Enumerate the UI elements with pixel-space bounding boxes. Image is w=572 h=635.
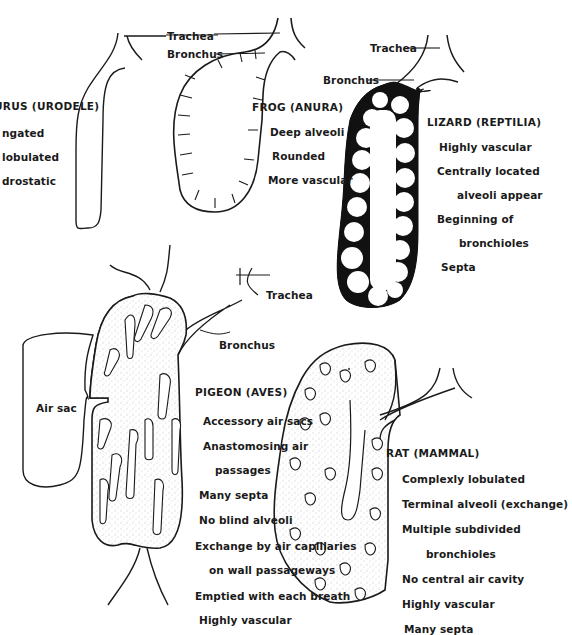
lizard-trachea-label: Trachea (370, 42, 417, 54)
rat-note: No central air cavity (402, 573, 568, 585)
pigeon-note: Emptied with each breath (195, 590, 357, 602)
frog-note: Deep alveoli (270, 126, 361, 138)
lizard-note: Centrally located (437, 165, 551, 177)
necturus-note: ngated (2, 127, 107, 139)
frog-caption: FROG (ANURA) Deep alveoli Rounded More v… (252, 101, 343, 149)
pigeon-note: Accessory air sacs (203, 415, 365, 427)
necturus-note: drostatic (2, 175, 107, 187)
lizard-bronchus-label: Bronchus (323, 74, 379, 86)
lizard-note: Beginning of (437, 213, 551, 225)
frog-note: More vascular (268, 174, 359, 186)
lizard-note: alveoli appear (457, 189, 571, 201)
rat-note: Complexly lobulated (402, 473, 568, 485)
pigeon-air-sac-label: Air sac (36, 402, 77, 414)
frog-note: Rounded (272, 150, 363, 162)
rat-note: Multiple subdivided (402, 523, 568, 535)
rat-title: RAT (MAMMAL) (386, 447, 552, 459)
necturus-caption: URUS (URODELE) ngated lobulated drostati… (0, 100, 105, 148)
rat-note: bronchioles (426, 548, 572, 560)
lizard-note: Highly vascular (439, 141, 553, 153)
rat-caption: RAT (MAMMAL) Complexly lobulated Termina… (386, 447, 552, 543)
frog-bronchus-label: Bronchus (167, 48, 223, 60)
lizard-title: LIZARD (REPTILIA) (427, 116, 541, 128)
rat-note: Terminal alveoli (exchange) (402, 498, 568, 510)
pigeon-note: Many septa (199, 489, 361, 501)
pigeon-trachea-label: Trachea (266, 289, 313, 301)
lizard-note: Septa (441, 261, 555, 273)
pigeon-note: Anastomosing air (203, 440, 365, 452)
frog-trachea-label: Trachea (167, 30, 214, 42)
pigeon-note: Highly vascular (199, 614, 361, 626)
pigeon-bronchus-label: Bronchus (219, 339, 275, 351)
pigeon-note: No blind alveoli (199, 514, 361, 526)
lizard-caption: LIZARD (REPTILIA) Highly vascular Centra… (427, 116, 541, 200)
pigeon-caption: PIGEON (AVES) Accessory air sacs Anastom… (195, 386, 357, 506)
lizard-note: bronchioles (459, 237, 572, 249)
pigeon-title: PIGEON (AVES) (195, 386, 357, 398)
frog-title: FROG (ANURA) (252, 101, 343, 113)
necturus-note: lobulated (2, 151, 107, 163)
pigeon-note: passages (215, 464, 377, 476)
necturus-title: URUS (URODELE) (0, 100, 99, 112)
pigeon-note: on wall passageways (209, 564, 371, 576)
rat-note: Highly vascular (402, 598, 568, 610)
rat-note: Many septa (404, 623, 570, 635)
pigeon-note: Exchange by air capillaries (195, 540, 357, 552)
